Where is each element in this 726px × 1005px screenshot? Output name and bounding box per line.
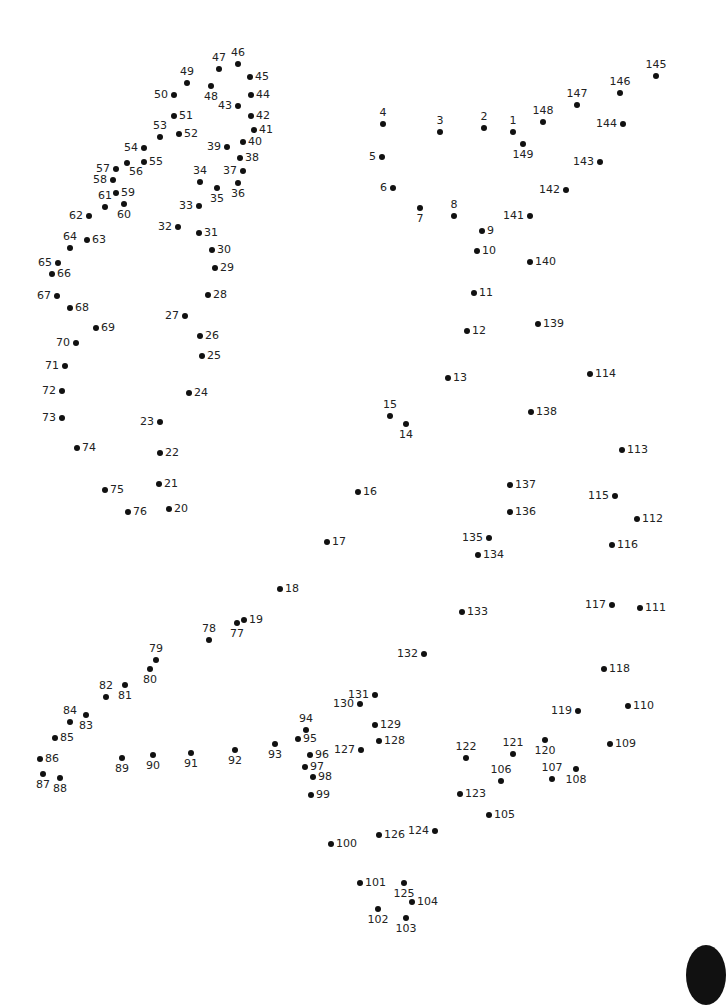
dot-7 — [417, 205, 423, 211]
dot-15 — [387, 413, 393, 419]
dot-101 — [357, 880, 363, 886]
dot-label: 16 — [363, 486, 377, 498]
dot-label: 74 — [82, 442, 96, 454]
dot-label: 125 — [394, 888, 415, 900]
dot-label: 66 — [57, 268, 71, 280]
dot-label: 131 — [348, 689, 369, 701]
dot-label: 40 — [248, 136, 262, 148]
dot-24 — [186, 390, 192, 396]
dot-label: 72 — [42, 385, 56, 397]
dot-14 — [403, 421, 409, 427]
dot-label: 118 — [609, 663, 630, 675]
dot-90 — [150, 752, 156, 758]
dot-129 — [372, 722, 378, 728]
dot-label: 24 — [194, 387, 208, 399]
dot-77 — [234, 620, 240, 626]
dot-label: 146 — [610, 76, 631, 88]
dot-30 — [209, 247, 215, 253]
dot-label: 37 — [223, 165, 237, 177]
dot-49 — [184, 80, 190, 86]
dot-50 — [171, 92, 177, 98]
dot-label: 64 — [63, 231, 77, 243]
dot-label: 79 — [149, 643, 163, 655]
dot-81 — [122, 682, 128, 688]
dot-label: 2 — [481, 111, 488, 123]
dot-70 — [73, 340, 79, 346]
dot-119 — [575, 708, 581, 714]
dot-88 — [57, 775, 63, 781]
dot-label: 115 — [588, 490, 609, 502]
dot-label: 106 — [491, 764, 512, 776]
dot-54 — [141, 145, 147, 151]
dot-label: 3 — [437, 115, 444, 127]
dot-34 — [197, 179, 203, 185]
dot-47 — [216, 66, 222, 72]
dot-label: 46 — [231, 47, 245, 59]
dot-99 — [308, 792, 314, 798]
dot-10 — [474, 248, 480, 254]
dot-label: 110 — [633, 700, 654, 712]
dot-141 — [527, 213, 533, 219]
dot-label: 31 — [204, 227, 218, 239]
dot-label: 98 — [318, 771, 332, 783]
dot-label: 84 — [63, 705, 77, 717]
dot-label: 10 — [482, 245, 496, 257]
dot-label: 61 — [98, 190, 112, 202]
dot-label: 25 — [207, 350, 221, 362]
dot-73 — [59, 415, 65, 421]
dot-label: 9 — [487, 225, 494, 237]
dot-label: 8 — [451, 199, 458, 211]
dot-label: 70 — [56, 337, 70, 349]
dot-label: 51 — [179, 110, 193, 122]
dot-132 — [421, 651, 427, 657]
dot-label: 59 — [121, 187, 135, 199]
dot-76 — [125, 509, 131, 515]
dot-120 — [542, 737, 548, 743]
dot-label: 33 — [179, 200, 193, 212]
dot-103 — [403, 915, 409, 921]
dot-135 — [486, 535, 492, 541]
dot-85 — [52, 735, 58, 741]
dot-91 — [188, 750, 194, 756]
dot-140 — [527, 259, 533, 265]
dot-label: 105 — [494, 809, 515, 821]
dot-136 — [507, 509, 513, 515]
dot-label: 113 — [627, 444, 648, 456]
dot-23 — [157, 419, 163, 425]
dot-83 — [83, 712, 89, 718]
dot-label: 36 — [231, 188, 245, 200]
dot-66 — [49, 271, 55, 277]
dot-label: 41 — [259, 124, 273, 136]
dot-label: 112 — [642, 513, 663, 525]
dot-label: 126 — [384, 829, 405, 841]
dot-label: 129 — [380, 719, 401, 731]
dot-label: 134 — [483, 549, 504, 561]
dot-label: 60 — [117, 209, 131, 221]
dot-122 — [463, 755, 469, 761]
dot-22 — [157, 450, 163, 456]
dot-label: 55 — [149, 156, 163, 168]
dot-36 — [235, 180, 241, 186]
dot-42 — [248, 113, 254, 119]
dot-label: 83 — [79, 720, 93, 732]
dot-label: 5 — [369, 151, 376, 163]
dot-105 — [486, 812, 492, 818]
dot-label: 140 — [535, 256, 556, 268]
dot-84 — [67, 719, 73, 725]
dot-label: 23 — [140, 416, 154, 428]
corner-page-mark — [686, 945, 726, 1005]
dot-130 — [357, 701, 363, 707]
dot-1 — [510, 129, 516, 135]
dot-label: 35 — [210, 193, 224, 205]
dot-label: 11 — [479, 287, 493, 299]
dot-label: 75 — [110, 484, 124, 496]
dot-label: 116 — [617, 539, 638, 551]
dot-label: 90 — [146, 760, 160, 772]
dot-133 — [459, 609, 465, 615]
dot-label: 45 — [255, 71, 269, 83]
dot-117 — [609, 602, 615, 608]
dot-44 — [248, 92, 254, 98]
dot-label: 30 — [217, 244, 231, 256]
dot-106 — [498, 778, 504, 784]
dot-label: 76 — [133, 506, 147, 518]
